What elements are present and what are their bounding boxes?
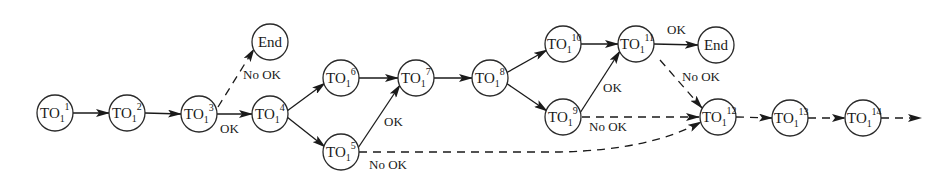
edge-12-13	[736, 117, 772, 118]
edge-4-6	[287, 83, 325, 111]
node-to-4: TO14	[252, 96, 288, 132]
edge-5-12	[359, 122, 701, 152]
edge-4-5	[287, 117, 325, 147]
edge-8-9	[506, 83, 547, 111]
node-to-11: TO111	[618, 26, 654, 62]
flow-diagram: OK No OK OK No OK OK No OK OK No OK TO11…	[0, 0, 946, 178]
edge-11-end	[654, 44, 698, 45]
label-nook-3-end: No OK	[243, 67, 282, 82]
label-ok-9-11: OK	[603, 80, 622, 95]
node-to-14: TO114	[845, 100, 881, 136]
label-nook-9-12: No OK	[589, 119, 628, 134]
edge-8-10	[506, 50, 547, 73]
node-to-8: TO18	[472, 60, 508, 96]
node-to-7: TO17	[398, 60, 434, 96]
label-ok-5-7: OK	[384, 114, 403, 129]
edge-11-12	[660, 60, 702, 108]
edge-2-3	[145, 113, 181, 114]
node-to-3: TO13	[181, 96, 217, 132]
label-ok-3-4: OK	[220, 121, 239, 136]
node-to-13: TO113	[772, 100, 808, 136]
node-end-1: End	[252, 24, 288, 60]
node-to-10: TO110	[545, 26, 581, 62]
svg-text:End: End	[258, 34, 283, 50]
node-to-12: TO112	[700, 99, 736, 135]
node-end-2: End	[698, 27, 734, 63]
nodes: TO11 TO12 TO13 End TO14 TO16 TO15 TO17	[37, 24, 881, 170]
label-ok-11-end: OK	[667, 22, 686, 37]
node-to-1: TO11	[37, 95, 73, 131]
label-nook-5-12: No OK	[369, 157, 408, 172]
node-to-6: TO16	[323, 60, 359, 96]
svg-text:End: End	[704, 37, 729, 53]
node-to-2: TO12	[109, 95, 145, 131]
node-to-5: TO15	[323, 134, 359, 170]
label-nook-11-12: No OK	[682, 69, 721, 84]
node-to-9: TO19	[545, 99, 581, 135]
